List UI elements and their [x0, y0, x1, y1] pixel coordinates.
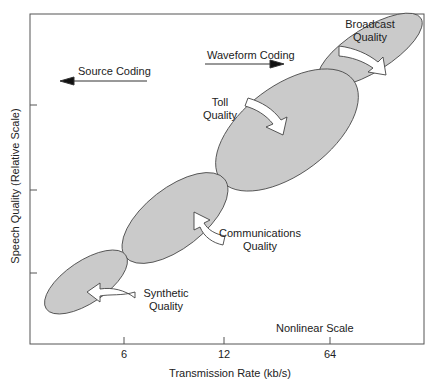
- communications-quality-label: CommunicationsQuality: [212, 227, 308, 253]
- x-tick-6: 6: [114, 348, 134, 361]
- x-tick-64: 64: [318, 348, 342, 361]
- y-axis-label: Speech Quality (Relative Scale): [9, 91, 21, 281]
- x-tick-12: 12: [212, 348, 236, 361]
- x-axis-label: Transmission Rate (kb/s): [130, 367, 330, 380]
- source-coding-label: Source Coding: [78, 65, 151, 78]
- toll-quality-label: TollQuality: [195, 96, 245, 122]
- synthetic-quality-label: SyntheticQuality: [136, 287, 196, 313]
- broadcast-quality-label: BroadcastQuality: [340, 18, 400, 44]
- nonlinear-scale-label: Nonlinear Scale: [276, 322, 354, 335]
- waveform-coding-label: Waveform Coding: [207, 49, 295, 62]
